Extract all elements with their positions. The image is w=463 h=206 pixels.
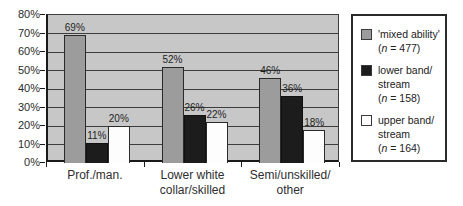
legend-item-label: 'mixed ability'(n = 477): [378, 27, 440, 55]
bar-lower-1: [184, 115, 206, 163]
y-axis-label: 80%: [0, 8, 40, 21]
bar-upper-2: [303, 130, 325, 163]
category-label-line: Semi/unskilled/: [225, 168, 355, 183]
gridline-60: [48, 52, 338, 53]
legend-label-line: 'mixed ability': [378, 27, 440, 41]
bar-value-label: 20%: [101, 113, 137, 124]
legend-item-0: 'mixed ability'(n = 477): [361, 27, 441, 55]
bar-lower-0: [86, 143, 108, 163]
bar-chart-figure: 0%10%20%30%40%50%60%70%80% 69%52%46%11%2…: [0, 0, 463, 206]
x-axis-tick: [339, 162, 340, 167]
bar-mixed-1: [162, 67, 184, 163]
legend-item-label: upper band/stream(n = 164): [378, 113, 434, 155]
legend-swatch-icon: [361, 65, 372, 76]
legend-label-line: lower band/: [378, 63, 432, 77]
bar-value-label: 36%: [274, 83, 310, 94]
bar-upper-1: [206, 122, 228, 163]
plot-area: 69%52%46%11%26%36%20%22%18%: [46, 14, 339, 162]
category-label-2: Semi/unskilled/other: [225, 168, 355, 198]
y-axis-tick: [40, 70, 45, 71]
legend-item-label: lower band/stream(n = 158): [378, 63, 432, 105]
bar-mixed-0: [64, 35, 86, 163]
legend-label-line: (n = 477): [378, 41, 440, 55]
x-axis-tick: [46, 162, 47, 167]
bar-value-label: 46%: [252, 65, 288, 76]
legend-item-1: lower band/stream(n = 158): [361, 63, 441, 105]
legend-label-line: stream: [378, 77, 432, 91]
y-axis-tick: [40, 144, 45, 145]
y-axis-label: 20%: [0, 119, 40, 132]
y-axis-tick: [40, 33, 45, 34]
x-axis-tick: [241, 162, 242, 167]
legend-swatch-icon: [361, 29, 372, 40]
y-axis-tick: [40, 162, 45, 163]
bar-value-label: 18%: [296, 117, 332, 128]
y-axis-label: 30%: [0, 101, 40, 114]
y-axis-tick: [40, 14, 45, 15]
bar-lower-2: [281, 96, 303, 163]
y-axis-label: 40%: [0, 82, 40, 95]
legend-label-line: (n = 158): [378, 91, 432, 105]
y-axis-tick: [40, 125, 45, 126]
legend-item-2: upper band/stream(n = 164): [361, 113, 441, 155]
legend: 'mixed ability'(n = 477)lower band/strea…: [351, 14, 447, 162]
bar-value-label: 69%: [57, 22, 93, 33]
y-axis-label: 50%: [0, 64, 40, 77]
legend-label-line: upper band/: [378, 113, 434, 127]
legend-label-line: (n = 164): [378, 141, 434, 155]
y-axis-label: 70%: [0, 27, 40, 40]
y-axis-tick: [40, 107, 45, 108]
gridline-50: [48, 70, 338, 71]
bar-upper-0: [108, 126, 130, 163]
category-label-line: other: [225, 183, 355, 198]
y-axis-tick: [40, 88, 45, 89]
bar-value-label: 52%: [155, 54, 191, 65]
bar-value-label: 22%: [199, 109, 235, 120]
y-axis-label: 10%: [0, 138, 40, 151]
y-axis-label: 60%: [0, 45, 40, 58]
x-axis-tick: [144, 162, 145, 167]
legend-label-line: stream: [378, 127, 434, 141]
y-axis-tick: [40, 51, 45, 52]
legend-swatch-icon: [361, 115, 372, 126]
